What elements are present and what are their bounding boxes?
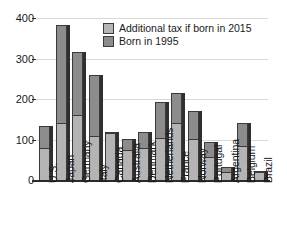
gridline-300 bbox=[36, 59, 268, 60]
x-axis-label-netherlands: Netherlands bbox=[164, 127, 175, 183]
legend-label-additional-tax: Additional tax if born in 2015 bbox=[119, 23, 252, 34]
bar-segment-additional-tax-france bbox=[172, 94, 181, 124]
x-axis-label-brazil: Brazil bbox=[263, 157, 274, 183]
y-axis-label-300: 300 bbox=[0, 54, 34, 65]
x-axis-label-denmark: Denmark bbox=[147, 141, 158, 183]
bar-segment-additional-tax-canada bbox=[106, 133, 115, 134]
x-axis-label-germany: Germany bbox=[81, 141, 92, 183]
x-axis-label-australia: Australia bbox=[131, 143, 142, 183]
y-axis-label-0: 0 bbox=[0, 175, 34, 186]
gridline-400 bbox=[36, 18, 268, 19]
gridline-200 bbox=[36, 99, 268, 100]
stacked-bar-chart: 400 300 200 100 0 bbox=[0, 0, 287, 247]
legend-swatch-icon-additional-tax bbox=[103, 23, 114, 34]
x-axis-label-japan: Japan bbox=[65, 155, 76, 183]
bar-segment-additional-tax-us bbox=[40, 127, 49, 149]
x-axis-label-belgium: Belgium bbox=[246, 146, 257, 183]
y-axis-label-100: 100 bbox=[0, 135, 34, 146]
x-axis-label-italy: Italy bbox=[98, 164, 109, 183]
bar-segment-additional-tax-germany bbox=[73, 53, 82, 116]
chart-legend: Additional tax if born in 2015 Born in 1… bbox=[100, 21, 255, 50]
legend-swatch-icon-born-1995 bbox=[103, 36, 114, 47]
bar-segment-additional-tax-norway bbox=[189, 112, 198, 140]
legend-item-born-1995: Born in 1995 bbox=[103, 36, 252, 47]
x-axis-label-norway: Norway bbox=[197, 148, 208, 183]
x-axis-label-portugal: Portugal bbox=[213, 145, 224, 183]
legend-label-born-1995: Born in 1995 bbox=[119, 36, 179, 47]
bar-segment-additional-tax-japan bbox=[57, 26, 66, 123]
y-axis-label-400: 400 bbox=[0, 13, 34, 24]
legend-item-additional-tax: Additional tax if born in 2015 bbox=[103, 23, 252, 34]
x-axis-label-canada: Canada bbox=[114, 147, 125, 183]
x-axis-label-france: France bbox=[180, 151, 191, 183]
bar-segment-additional-tax-italy bbox=[90, 76, 99, 138]
x-axis-label-argentina: Argentina bbox=[230, 139, 241, 183]
y-axis-label-200: 200 bbox=[0, 94, 34, 105]
x-axis-label-us: U.S. bbox=[48, 163, 59, 183]
